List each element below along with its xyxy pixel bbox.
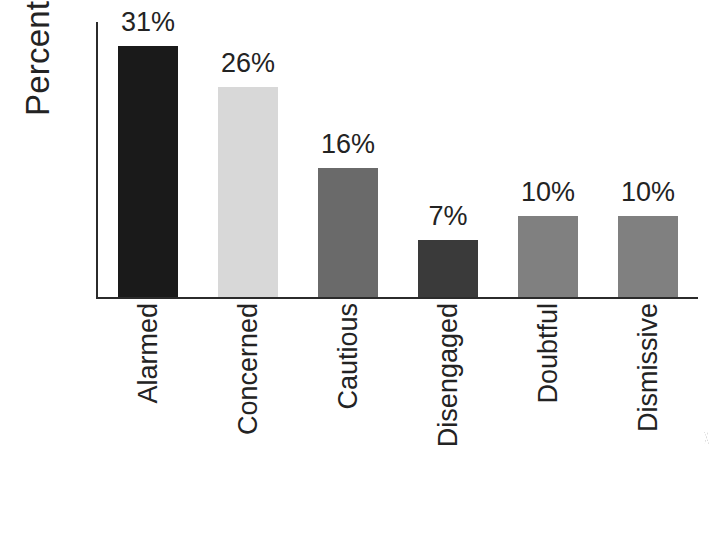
bar-alarmed[interactable]	[118, 46, 178, 297]
x-tick-label-dismissive: Dismissive	[635, 303, 662, 432]
bar-value-label-cautious: 16%	[321, 131, 375, 158]
x-tick-label-disengaged: Disengaged	[435, 303, 462, 447]
x-tick-label-concerned: Concerned	[235, 303, 262, 435]
y-axis-title: Percental	[10, 0, 66, 116]
x-tick-label-cautious: Cautious	[335, 303, 362, 410]
bar-group-alarmed: 31%	[118, 22, 178, 297]
x-axis-line	[96, 297, 698, 299]
x-tick-slot-cautious: Cautious	[318, 303, 378, 503]
bar-group-dismissive: 10%	[618, 22, 678, 297]
bar-chart: Percental 31%26%16%7%10%10% AlarmedConce…	[0, 0, 720, 540]
x-tick-label-alarmed: Alarmed	[135, 303, 162, 404]
x-tick-slot-dismissive: Dismissive	[618, 303, 678, 503]
x-tick-slot-concerned: Concerned	[218, 303, 278, 503]
x-tick-slot-doubtful: Doubtful	[518, 303, 578, 503]
bar-value-label-disengaged: 7%	[428, 203, 467, 230]
scan-artifact-speck	[702, 432, 712, 444]
bar-value-label-dismissive: 10%	[621, 179, 675, 206]
plot-area: 31%26%16%7%10%10%	[98, 22, 698, 297]
bar-doubtful[interactable]	[518, 216, 578, 297]
bar-group-doubtful: 10%	[518, 22, 578, 297]
bar-concerned[interactable]	[218, 87, 278, 297]
bar-value-label-concerned: 26%	[221, 50, 275, 77]
bar-dismissive[interactable]	[618, 216, 678, 297]
bar-value-label-doubtful: 10%	[521, 179, 575, 206]
bar-cautious[interactable]	[318, 168, 378, 297]
bar-value-label-alarmed: 31%	[121, 9, 175, 36]
x-tick-slot-disengaged: Disengaged	[418, 303, 478, 503]
bar-group-disengaged: 7%	[418, 22, 478, 297]
x-tick-label-doubtful: Doubtful	[535, 303, 562, 404]
bar-group-concerned: 26%	[218, 22, 278, 297]
x-tick-slot-alarmed: Alarmed	[118, 303, 178, 503]
x-axis-tick-labels: AlarmedConcernedCautiousDisengagedDoubtf…	[98, 303, 698, 503]
bar-disengaged[interactable]	[418, 240, 478, 297]
bar-group-cautious: 16%	[318, 22, 378, 297]
